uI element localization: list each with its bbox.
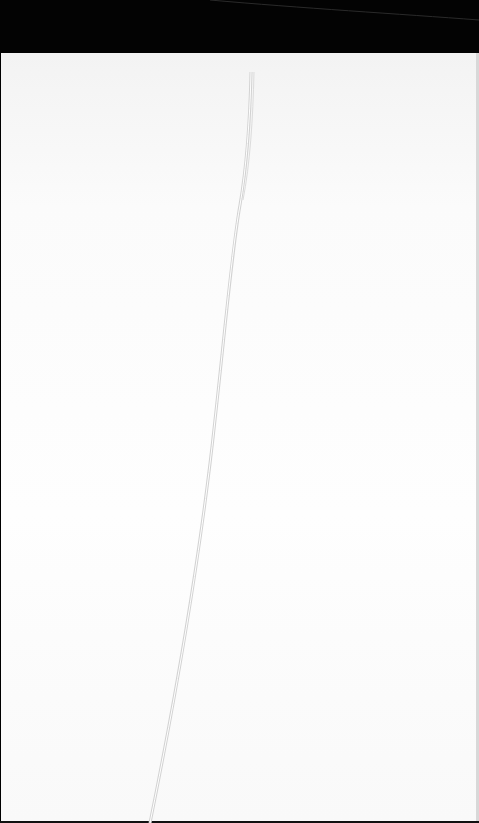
strand-drawing bbox=[0, 0, 479, 823]
background-reflection-line bbox=[210, 0, 479, 20]
strand-highlight bbox=[150, 72, 251, 823]
white-strand bbox=[150, 72, 251, 823]
